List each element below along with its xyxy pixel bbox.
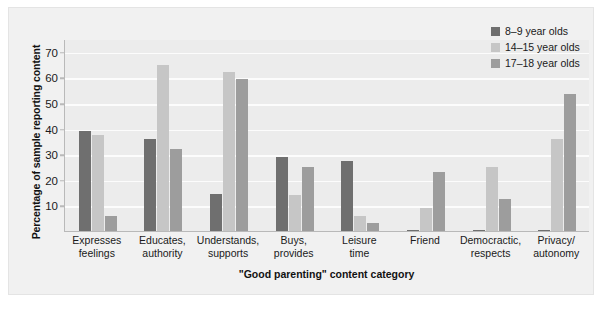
bar [538, 230, 550, 231]
bar [223, 72, 235, 231]
x-axis-label-line: supports [195, 247, 261, 260]
bar [236, 79, 248, 231]
legend-swatch-icon [491, 27, 500, 36]
x-axis-label: Friend [392, 234, 458, 247]
x-axis-label-line: Educates, [130, 234, 196, 247]
x-axis-label-line: feelings [64, 247, 130, 260]
bar [79, 131, 91, 231]
bar [92, 135, 104, 231]
legend-item: 17–18 year olds [491, 56, 580, 70]
bar [210, 194, 222, 231]
bar [473, 230, 485, 231]
bar [302, 167, 314, 231]
bar [144, 139, 156, 231]
chart-legend: 8–9 year olds14–15 year olds17–18 year o… [491, 24, 580, 72]
x-axis-label-line: Expresses [64, 234, 130, 247]
x-axis-labels: ExpressesfeelingsEducates,authorityUnder… [64, 234, 589, 270]
bar [407, 230, 419, 231]
x-axis-label: Privacy/autonomy [523, 234, 589, 259]
y-axis-tick-label: 70 [45, 47, 58, 59]
legend-swatch-icon [491, 59, 500, 68]
x-axis-label-line: Democractic, [458, 234, 524, 247]
y-axis-tick-label: 40 [45, 124, 58, 136]
x-axis-title: "Good parenting" content category [64, 268, 589, 280]
x-axis-label: Educates,authority [130, 234, 196, 259]
legend-item: 8–9 year olds [491, 24, 580, 38]
bar [354, 216, 366, 231]
bar [170, 149, 182, 231]
bar [105, 216, 117, 231]
bar [367, 223, 379, 231]
x-axis-label: Expressesfeelings [64, 234, 130, 259]
bar-group [65, 40, 131, 231]
bar [276, 157, 288, 231]
bar [551, 139, 563, 231]
x-axis-label: Democractic,respects [458, 234, 524, 259]
x-axis-label-line: respects [458, 247, 524, 260]
chart-figure: 10203040506070 Percentage of sample repo… [0, 0, 610, 309]
legend-label: 14–15 year olds [505, 41, 580, 53]
legend-item: 14–15 year olds [491, 40, 580, 54]
bar [433, 172, 445, 231]
x-axis-label-line: Buys, [261, 234, 327, 247]
x-axis-label-line: Understands, [195, 234, 261, 247]
bar [564, 94, 576, 231]
x-axis-label-line: authority [130, 247, 196, 260]
x-axis-label-line: time [327, 247, 393, 260]
y-axis-tick-label: 10 [45, 200, 58, 212]
legend-swatch-icon [491, 43, 500, 52]
bar [341, 161, 353, 231]
legend-label: 8–9 year olds [505, 25, 568, 37]
bar [289, 195, 301, 231]
bar [420, 208, 432, 231]
x-axis-label: Buys,provides [261, 234, 327, 259]
x-axis-label: Understands,supports [195, 234, 261, 259]
y-axis-title: Percentage of sample reporting content [30, 42, 42, 242]
x-axis-label-line: Privacy/ [523, 234, 589, 247]
y-axis-tick-label: 50 [45, 98, 58, 110]
x-axis-label-line: autonomy [523, 247, 589, 260]
x-axis-label-line: Friend [392, 234, 458, 247]
bar-group [328, 40, 394, 231]
y-axis-tick-label: 20 [45, 175, 58, 187]
bar-group [393, 40, 459, 231]
y-axis-tick-label: 30 [45, 149, 58, 161]
x-axis-label: Leisuretime [327, 234, 393, 259]
x-axis-label-line: Leisure [327, 234, 393, 247]
legend-label: 17–18 year olds [505, 57, 580, 69]
bar-group [262, 40, 328, 231]
bar-group [196, 40, 262, 231]
bar [499, 199, 511, 231]
bar [486, 167, 498, 231]
y-axis-tick-label: 60 [45, 72, 58, 84]
bar [157, 65, 169, 231]
x-axis-label-line: provides [261, 247, 327, 260]
bar-group [131, 40, 197, 231]
